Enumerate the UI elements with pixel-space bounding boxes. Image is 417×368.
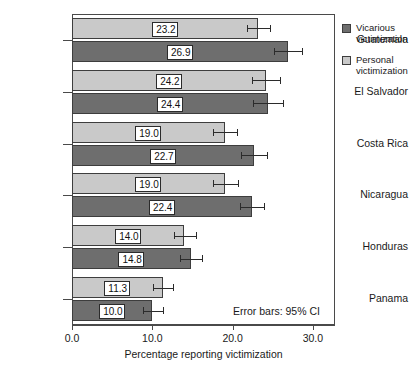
value-label: 10.0 — [99, 304, 125, 319]
error-bar-line — [174, 236, 196, 237]
chart-legend: Vicarious victimization Personal victimi… — [342, 22, 417, 86]
error-bar-cap-high — [237, 129, 238, 136]
legend-swatch-vicarious-icon — [342, 24, 351, 33]
value-label: 22.4 — [149, 200, 175, 215]
error-bar-line — [253, 103, 283, 104]
error-bar-cap-low — [153, 284, 154, 291]
x-tick-label: 0.0 — [52, 332, 92, 344]
legend-item-vicarious[interactable]: Vicarious victimization — [342, 22, 417, 46]
x-axis-title: Percentage reporting victimization — [72, 348, 335, 360]
value-label: 14.0 — [115, 229, 141, 244]
error-bar-cap-low — [252, 77, 253, 84]
error-bar-cap-high — [302, 48, 303, 55]
error-bar-cap-low — [253, 100, 254, 107]
legend-label-personal-line2: victimization — [356, 65, 417, 76]
error-bar-cap-high — [264, 203, 265, 210]
value-label: 24.2 — [156, 74, 182, 89]
error-bar-cap-low — [180, 255, 181, 262]
value-label: 14.8 — [118, 252, 144, 267]
value-label: 26.9 — [167, 45, 193, 60]
x-tick — [313, 325, 314, 330]
x-tick-label: 30.0 — [293, 332, 333, 344]
error-bar-line — [252, 80, 280, 81]
category-tick — [63, 299, 72, 300]
category-label-el-salvador: El Salvador — [347, 86, 417, 97]
error-bar-cap-high — [283, 100, 284, 107]
error-bar-cap-low — [143, 307, 144, 314]
category-label-honduras: Honduras — [347, 241, 417, 252]
category-tick — [63, 195, 72, 196]
category-label-nicaragua: Nicaragua — [347, 189, 417, 200]
category-tick — [63, 247, 72, 248]
error-bar-line — [153, 288, 173, 289]
category-tick — [63, 40, 72, 41]
legend-label-vicarious-line2: victimization — [356, 33, 417, 44]
x-axis-line — [72, 325, 335, 326]
error-bar-line — [213, 132, 237, 133]
error-bar-cap-low — [174, 232, 175, 239]
category-tick — [63, 144, 72, 145]
error-bar-cap-high — [173, 284, 174, 291]
error-bar-cap-high — [196, 232, 197, 239]
value-label: 19.0 — [135, 126, 161, 141]
legend-swatch-personal-icon — [342, 56, 351, 65]
value-label: 24.4 — [157, 97, 183, 112]
error-bar-cap-low — [274, 48, 275, 55]
x-tick — [72, 325, 73, 330]
value-label: 19.0 — [135, 177, 161, 192]
error-bar-cap-low — [213, 129, 214, 136]
legend-label-vicarious-line1: Vicarious — [356, 22, 417, 33]
error-bar-cap-low — [240, 203, 241, 210]
legend-item-personal[interactable]: Personal victimization — [342, 54, 417, 78]
error-bar-cap-high — [267, 152, 268, 159]
category-tick — [63, 92, 72, 93]
error-bar-cap-low — [241, 152, 242, 159]
x-tick-label: 10.0 — [132, 332, 172, 344]
chart-figure: GuatemalaEl SalvadorCosta RicaNicaraguaH… — [0, 0, 417, 368]
error-bar-line — [143, 311, 163, 312]
error-bar-cap-high — [270, 25, 271, 32]
x-tick — [233, 325, 234, 330]
error-bar-line — [213, 184, 239, 185]
error-bar-cap-high — [202, 255, 203, 262]
error-bar-line — [180, 259, 202, 260]
error-bar-cap-low — [213, 180, 214, 187]
legend-label-personal-line1: Personal — [356, 54, 417, 65]
error-bar-cap-low — [247, 25, 248, 32]
category-label-panama: Panama — [347, 293, 417, 304]
x-tick — [152, 325, 153, 330]
error-bar-cap-high — [163, 307, 164, 314]
error-bar-line — [240, 207, 264, 208]
value-label: 22.7 — [150, 149, 176, 164]
error-bar-line — [247, 28, 270, 29]
category-label-costa-rica: Costa Rica — [347, 138, 417, 149]
error-bar-line — [241, 155, 267, 156]
value-label: 23.2 — [152, 22, 178, 37]
x-tick-label: 20.0 — [213, 332, 253, 344]
error-bar-line — [274, 51, 301, 52]
error-bar-cap-high — [238, 180, 239, 187]
error-bar-annotation: Error bars: 95% CI — [233, 305, 320, 317]
error-bar-cap-high — [280, 77, 281, 84]
value-label: 11.3 — [104, 281, 130, 296]
